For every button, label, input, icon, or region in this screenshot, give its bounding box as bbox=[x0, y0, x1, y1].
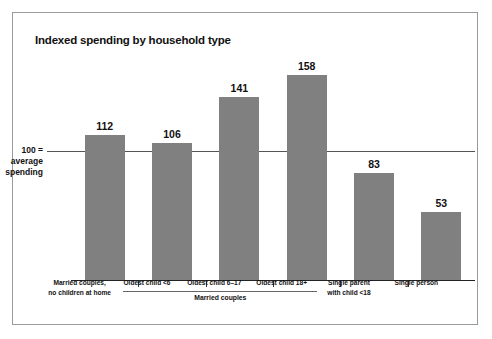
bar[interactable] bbox=[354, 173, 394, 281]
bar-group: 112 bbox=[85, 53, 125, 281]
x-axis-label: Oldest child <6 bbox=[113, 278, 180, 288]
bar-group: 158 bbox=[287, 53, 327, 281]
reference-label-line-3: spending bbox=[0, 167, 43, 178]
x-axis-label-line: Married couples, bbox=[46, 278, 113, 288]
bar-value-label: 53 bbox=[421, 197, 461, 209]
x-axis-label-line: Oldest child 6–17 bbox=[181, 278, 248, 288]
group-bracket-line bbox=[123, 291, 317, 292]
x-axis-label-line: Oldest child 18+ bbox=[248, 278, 315, 288]
reference-line-label: 100 = average spending bbox=[0, 145, 43, 178]
x-axis-label: Married couples,no children at home bbox=[46, 278, 113, 297]
bar-group: 141 bbox=[219, 53, 259, 281]
chart-page: Indexed spending by household type 100 =… bbox=[0, 0, 492, 339]
bar-value-label: 112 bbox=[85, 120, 125, 132]
bar[interactable] bbox=[152, 143, 192, 281]
bar[interactable] bbox=[219, 97, 259, 281]
reference-label-line-1: 100 = bbox=[0, 145, 43, 156]
x-axis-label-line: Oldest child <6 bbox=[113, 278, 180, 288]
bar-value-label: 83 bbox=[354, 158, 394, 170]
plot-area: 100 = average spending 1121061411588353 bbox=[71, 53, 475, 281]
bar[interactable] bbox=[287, 75, 327, 281]
bar-value-label: 106 bbox=[152, 128, 192, 140]
group-bracket-label: Married couples bbox=[123, 294, 317, 301]
bar[interactable] bbox=[85, 135, 125, 281]
x-axis-label-line: with child <18 bbox=[315, 288, 382, 298]
x-axis-label: Single person bbox=[383, 278, 450, 288]
bar[interactable] bbox=[421, 212, 461, 281]
x-axis-label-line: no children at home bbox=[46, 288, 113, 298]
page-title: Indexed spending by household type bbox=[35, 34, 231, 46]
bar-group: 83 bbox=[354, 53, 394, 281]
x-axis-label: Oldest child 18+ bbox=[248, 278, 315, 288]
x-axis-label: Oldest child 6–17 bbox=[181, 278, 248, 288]
x-axis-label-line: Single person bbox=[383, 278, 450, 288]
bar-value-label: 158 bbox=[287, 60, 327, 72]
x-axis-label-line: Single parent bbox=[315, 278, 382, 288]
bar-value-label: 141 bbox=[219, 82, 259, 94]
chart-frame: Indexed spending by household type 100 =… bbox=[12, 12, 478, 325]
x-axis-label: Single parentwith child <18 bbox=[315, 278, 382, 297]
bar-group: 53 bbox=[421, 53, 461, 281]
bar-group: 106 bbox=[152, 53, 192, 281]
reference-label-line-2: average bbox=[0, 156, 43, 167]
